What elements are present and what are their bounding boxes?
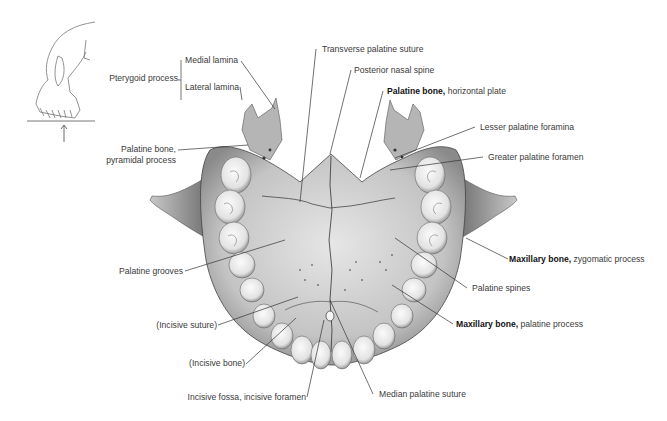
palate-illustration bbox=[0, 0, 667, 421]
right-zygomatic-process bbox=[457, 178, 517, 240]
label-rest-part: palatine process bbox=[518, 319, 583, 329]
label-incisive-fossa: Incisive fossa, incisive foramen bbox=[170, 392, 306, 403]
label-rest-part: horizontal plate bbox=[445, 86, 506, 96]
label-palatine-spines: Palatine spines bbox=[472, 283, 530, 294]
label-greater-palatine-foramen: Greater palatine foramen bbox=[488, 152, 584, 163]
label-line-2: pyramidal process bbox=[106, 155, 176, 165]
label-bold-part: Maxillary bone, bbox=[456, 319, 518, 329]
label-lesser-palatine-foramina: Lesser palatine foramina bbox=[480, 122, 574, 133]
left-pterygoid-process bbox=[242, 98, 282, 160]
label-line-1: Palatine bone, bbox=[121, 144, 176, 154]
label-posterior-nasal-spine: Posterior nasal spine bbox=[354, 65, 434, 76]
label-lateral-lamina: Lateral lamina bbox=[185, 82, 239, 93]
label-bold-part: Palatine bone, bbox=[387, 86, 445, 96]
label-incisive-suture: (Incisive suture) bbox=[140, 320, 217, 331]
label-transverse-palatine-suture: Transverse palatine suture bbox=[322, 44, 423, 55]
label-bold-part: Maxillary bone, bbox=[509, 254, 571, 264]
pterygoid-bracket bbox=[178, 60, 181, 100]
label-pterygoid-process: Pterygoid process bbox=[105, 73, 178, 84]
incisive-foramen bbox=[326, 311, 334, 321]
skull-orientation-icon bbox=[27, 22, 95, 142]
label-median-palatine-suture: Median palatine suture bbox=[379, 389, 466, 400]
right-pterygoid-process bbox=[384, 100, 424, 160]
label-medial-lamina: Medial lamina bbox=[185, 55, 238, 66]
label-maxillary-palatine: Maxillary bone, palatine process bbox=[456, 319, 583, 330]
label-incisive-bone: (Incisive bone) bbox=[170, 358, 245, 369]
label-palatine-bone-pyramidal: Palatine bone, pyramidal process bbox=[100, 144, 176, 165]
label-palatine-grooves: Palatine grooves bbox=[100, 266, 183, 277]
label-rest-part: zygomatic process bbox=[571, 254, 645, 264]
label-maxillary-zygomatic: Maxillary bone, zygomatic process bbox=[509, 254, 645, 265]
label-palatine-bone-horizontal: Palatine bone, horizontal plate bbox=[387, 86, 506, 97]
